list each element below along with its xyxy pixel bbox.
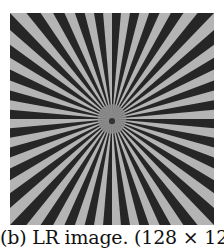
siemens-star-image: [10, 13, 214, 225]
figure-caption: (b) LR image. (128 × 128): [0, 226, 224, 248]
siemens-star-pattern: [10, 13, 214, 225]
